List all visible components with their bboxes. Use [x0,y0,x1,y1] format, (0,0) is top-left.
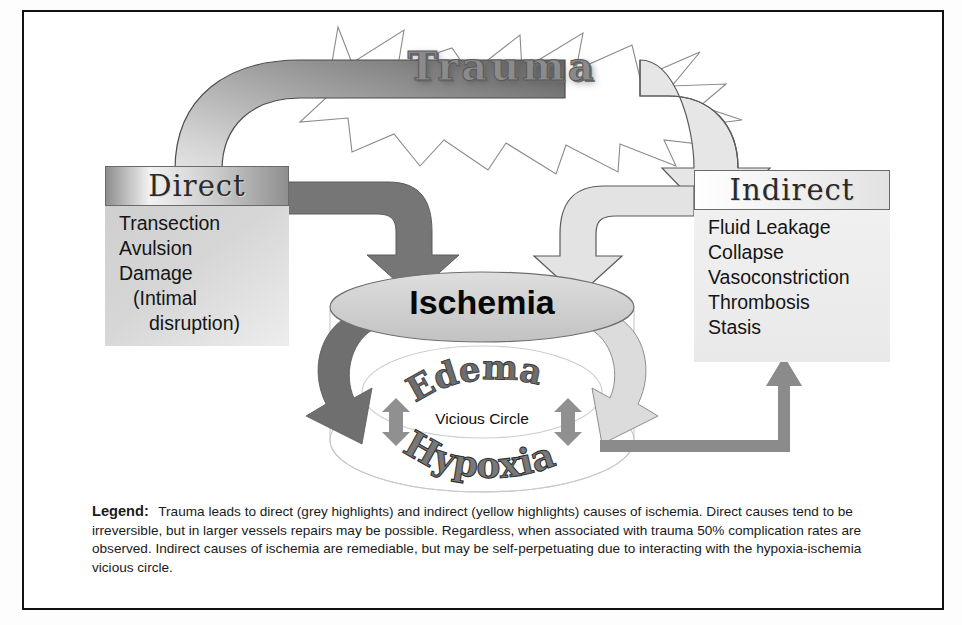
direct-box: Direct Transection Avulsion Damage (Inti… [105,166,289,346]
legend-text: Trauma leads to direct (grey highlights)… [92,504,861,575]
indirect-box: Indirect Fluid Leakage Collapse Vasocons… [694,170,890,362]
indirect-item: Fluid Leakage [708,215,890,240]
direct-header: Direct [105,166,289,206]
indirect-item: Thrombosis [708,290,890,315]
legend-label: Legend: [92,503,149,519]
figure-container: Edema Hypoxia Trauma Direct Transection … [0,0,962,625]
indirect-item: Collapse [708,240,890,265]
direct-item: Damage [119,261,289,286]
indirect-item: Stasis [708,315,890,340]
indirect-header: Indirect [694,170,890,210]
direct-item: (Intimal [119,286,289,311]
legend: Legend: Trauma leads to direct (grey hig… [92,502,882,577]
vicious-circle-label: Vicious Circle [402,410,562,428]
direct-body: Transection Avulsion Damage (Intimal dis… [105,206,289,346]
indirect-item: Vasoconstriction [708,265,890,290]
direct-item: disruption) [119,311,289,336]
trauma-title: Trauma [352,42,652,89]
direct-item: Avulsion [119,236,289,261]
ischemia-label: Ischemia [372,283,592,322]
indirect-body: Fluid Leakage Collapse Vasoconstriction … [694,210,890,362]
direct-item: Transection [119,211,289,236]
